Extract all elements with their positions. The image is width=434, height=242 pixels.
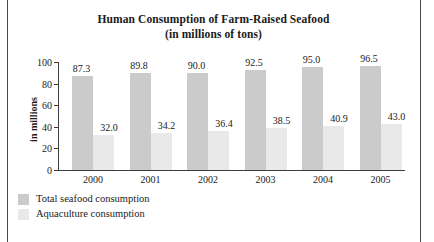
x-axis-line bbox=[58, 170, 405, 171]
y-tick-label: 20 bbox=[42, 143, 52, 154]
legend-item: Aquaculture consumption bbox=[18, 207, 150, 221]
x-tick-label: 2001 bbox=[130, 174, 172, 185]
bar-total-seafood bbox=[360, 66, 381, 170]
chart-title: Human Consumption of Farm-Raised Seafood… bbox=[7, 12, 420, 42]
legend-item: Total seafood consumption bbox=[18, 192, 150, 206]
bar-value-total-seafood: 87.3 bbox=[71, 63, 92, 74]
x-tick-label: 2002 bbox=[187, 174, 229, 185]
bar-value-total-seafood: 92.5 bbox=[244, 57, 265, 68]
bar-group: 96.543.02005 bbox=[360, 62, 402, 170]
chart-title-line-1: Human Consumption of Farm-Raised Seafood bbox=[7, 12, 420, 27]
bar-value-total-seafood: 96.5 bbox=[359, 53, 380, 64]
bar-value-total-seafood: 90.0 bbox=[186, 60, 207, 71]
bar-value-aquaculture: 43.0 bbox=[383, 111, 411, 122]
y-tick-mark bbox=[54, 170, 58, 171]
y-tick-mark bbox=[54, 148, 58, 149]
chart-legend: Total seafood consumptionAquaculture con… bbox=[18, 192, 150, 222]
bar-total-seafood bbox=[302, 67, 323, 170]
y-tick-label: 80 bbox=[42, 78, 52, 89]
bar-value-aquaculture: 32.0 bbox=[95, 122, 123, 133]
chart-figure: Human Consumption of Farm-Raised Seafood… bbox=[0, 0, 434, 242]
y-tick-mark bbox=[54, 127, 58, 128]
x-tick-label: 2003 bbox=[245, 174, 287, 185]
bar-total-seafood bbox=[130, 73, 151, 170]
legend-swatch bbox=[18, 194, 29, 205]
bar-aquaculture bbox=[151, 133, 172, 170]
bar-group: 92.538.52003 bbox=[245, 62, 287, 170]
bar-value-total-seafood: 95.0 bbox=[301, 54, 322, 65]
x-tick-label: 2000 bbox=[72, 174, 114, 185]
bar-total-seafood bbox=[245, 70, 266, 170]
y-tick-mark bbox=[54, 105, 58, 106]
y-tick-mark bbox=[54, 84, 58, 85]
bar-value-total-seafood: 89.8 bbox=[129, 60, 150, 71]
y-tick-mark bbox=[54, 62, 58, 63]
legend-swatch bbox=[18, 209, 29, 220]
bar-value-aquaculture: 40.9 bbox=[325, 113, 353, 124]
x-tick-label: 2005 bbox=[360, 174, 402, 185]
bar-aquaculture bbox=[208, 131, 229, 170]
y-tick-label: 60 bbox=[42, 100, 52, 111]
plot-area: 100806040200 87.332.0200089.834.2200190.… bbox=[58, 62, 405, 170]
bar-aquaculture bbox=[266, 128, 287, 170]
bar-value-aquaculture: 34.2 bbox=[153, 120, 181, 131]
y-axis-label: in millions bbox=[26, 84, 40, 154]
bar-aquaculture bbox=[323, 126, 344, 170]
bar-aquaculture bbox=[381, 124, 402, 170]
y-axis-label-text: in millions bbox=[28, 97, 39, 142]
chart-title-line-2: (in millions of tons) bbox=[7, 27, 420, 42]
legend-label: Aquaculture consumption bbox=[36, 208, 145, 220]
bar-group: 87.332.02000 bbox=[72, 62, 114, 170]
x-tick-label: 2004 bbox=[302, 174, 344, 185]
legend-label: Total seafood consumption bbox=[36, 193, 150, 205]
bar-group: 90.036.42002 bbox=[187, 62, 229, 170]
y-tick-label: 40 bbox=[42, 121, 52, 132]
bar-aquaculture bbox=[93, 135, 114, 170]
bar-group: 89.834.22001 bbox=[130, 62, 172, 170]
bar-value-aquaculture: 38.5 bbox=[268, 115, 296, 126]
bar-value-aquaculture: 36.4 bbox=[210, 118, 238, 129]
frame-rule-right bbox=[420, 0, 421, 242]
y-axis-line bbox=[58, 62, 59, 170]
y-tick-label: 0 bbox=[47, 165, 52, 176]
y-tick-label: 100 bbox=[37, 57, 52, 68]
bar-total-seafood bbox=[72, 76, 93, 170]
bar-group: 95.040.92004 bbox=[302, 62, 344, 170]
bar-total-seafood bbox=[187, 73, 208, 170]
